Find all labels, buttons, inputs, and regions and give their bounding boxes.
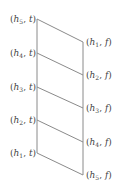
right-node-label: (h5, f) [86, 170, 112, 180]
left-node-label: (h5, t) [10, 14, 36, 24]
left-node-label: (h2, t) [10, 115, 36, 125]
edge-line [37, 19, 83, 42]
right-node-label: (h3, f) [86, 103, 112, 113]
right-node-label: (h4, f) [86, 137, 112, 147]
diagram-canvas: (h5, t)(h4, t)(h3, t)(h2, t)(h1, t)(h1, … [0, 0, 122, 189]
left-node-label: (h1, t) [10, 148, 36, 158]
right-node-label: (h2, f) [86, 70, 112, 80]
edge-line [37, 53, 83, 75]
edge-line [37, 87, 83, 108]
edge-line [37, 120, 83, 142]
ladder-lines [0, 0, 122, 189]
left-node-label: (h4, t) [10, 48, 36, 58]
left-node-label: (h3, t) [10, 82, 36, 92]
right-node-label: (h1, f) [86, 37, 112, 47]
edge-line [37, 153, 83, 175]
